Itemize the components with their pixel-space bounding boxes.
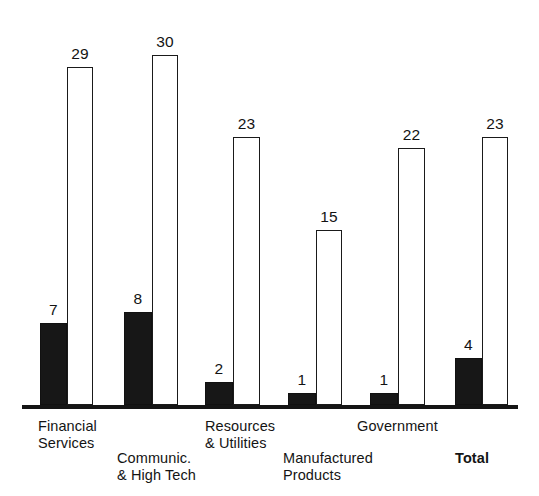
- category-label-line2: Products: [283, 467, 373, 484]
- bar-total-dark: [455, 358, 482, 405]
- value-label-resources-utilities-light: 23: [225, 116, 268, 132]
- bar-manufactured-products-dark: [288, 393, 316, 405]
- category-label-total: Total: [455, 450, 489, 467]
- bar-financial-services-light: [67, 67, 93, 405]
- category-label-line1: Total: [455, 450, 489, 467]
- value-label-government-light: 22: [390, 127, 433, 143]
- value-label-communic-high-tech-light: 30: [144, 34, 186, 50]
- bar-financial-services-dark: [40, 323, 67, 405]
- category-label-communic-high-tech: Communic.& High Tech: [117, 450, 196, 484]
- bar-communic-high-tech-light: [152, 55, 178, 405]
- bar-resources-utilities-light: [233, 137, 260, 405]
- category-label-line2: Services: [38, 435, 97, 452]
- bar-government-light: [398, 148, 425, 405]
- category-label-manufactured-products: ManufacturedProducts: [283, 450, 373, 484]
- category-label-government: Government: [357, 418, 438, 435]
- bar-chart-plot-area: 729FinancialServices830Communic.& High T…: [0, 0, 539, 496]
- bar-communic-high-tech-dark: [124, 312, 152, 405]
- category-label-line1: Communic.: [117, 450, 196, 467]
- category-label-line2: & Utilities: [205, 435, 275, 452]
- chart-page: 729FinancialServices830Communic.& High T…: [0, 0, 539, 496]
- category-label-line1: Financial: [38, 418, 97, 435]
- bar-total-light: [482, 137, 508, 405]
- x-axis-baseline: [22, 405, 518, 409]
- category-label-line1: Manufactured: [283, 450, 373, 467]
- category-label-line1: Resources: [205, 418, 275, 435]
- bar-resources-utilities-dark: [205, 382, 233, 405]
- category-label-resources-utilities: Resources& Utilities: [205, 418, 275, 452]
- value-label-total-light: 23: [474, 116, 516, 132]
- category-label-financial-services: FinancialServices: [38, 418, 97, 452]
- category-label-line2: & High Tech: [117, 467, 196, 484]
- value-label-financial-services-light: 29: [59, 46, 101, 62]
- value-label-manufactured-products-light: 15: [308, 209, 350, 225]
- category-label-line1: Government: [357, 418, 438, 435]
- bar-manufactured-products-light: [316, 230, 342, 405]
- bar-government-dark: [370, 393, 398, 405]
